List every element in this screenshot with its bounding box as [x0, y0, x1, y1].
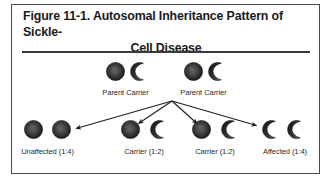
- offspring-carrier-1-allele-normal-sphere-icon: [121, 120, 140, 139]
- offspring-carrier-2-allele-normal-sphere-icon: [192, 120, 211, 139]
- offspring-affected-label: Affected (1:4): [246, 147, 324, 156]
- offspring-unaffected-allele-normal-sphere-icon-2: [52, 120, 71, 139]
- offspring-carrier-2-allele-sickle-crescent-icon: [219, 120, 238, 139]
- parent-1-allele-sickle-crescent-icon: [128, 62, 147, 81]
- offspring-unaffected-allele-normal-sphere-icon-1: [24, 120, 43, 139]
- parent-2-allele-normal-sphere-icon: [184, 62, 203, 81]
- offspring-affected-allele-sickle-crescent-icon-1: [260, 120, 279, 139]
- offspring-affected-allele-sickle-crescent-icon-2: [285, 120, 304, 139]
- figure-title-line-2: Cell Disease: [18, 40, 314, 56]
- figure-container: Figure 11-1. Autosomal Inheritance Patte…: [0, 0, 334, 189]
- offspring-carrier-1-allele-sickle-crescent-icon: [148, 120, 167, 139]
- title-divider: [22, 51, 310, 53]
- parent-1-allele-normal-sphere-icon: [106, 62, 125, 81]
- parent-1-label: Parent Carrier: [90, 88, 161, 97]
- figure-title: Figure 11-1. Autosomal Inheritance Patte…: [18, 8, 314, 56]
- offspring-unaffected-label: Unaffected (1:4): [9, 147, 86, 156]
- parent-2-label: Parent Carrier: [168, 88, 239, 97]
- offspring-carrier-2-label: Carrier (1:2): [178, 147, 252, 156]
- figure-title-line-1: Figure 11-1. Autosomal Inheritance Patte…: [18, 8, 314, 40]
- parent-2-allele-sickle-crescent-icon: [206, 62, 225, 81]
- offspring-carrier-1-label: Carrier (1:2): [107, 147, 181, 156]
